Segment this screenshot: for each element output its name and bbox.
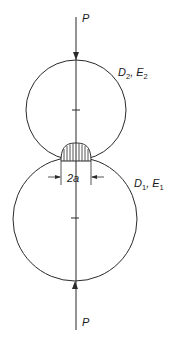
top-force-arrow (73, 52, 79, 60)
top-force-label: P (82, 12, 90, 24)
upper-body-label: D2, E2 (118, 66, 148, 81)
contact-width-label: 2a (66, 172, 79, 184)
contact-diagram: P P 2a D2, E2 D1, E1 (0, 0, 171, 341)
bottom-force-label: P (82, 316, 90, 328)
bottom-force-arrow (72, 281, 78, 289)
lower-body-label: D1, E1 (134, 177, 164, 192)
